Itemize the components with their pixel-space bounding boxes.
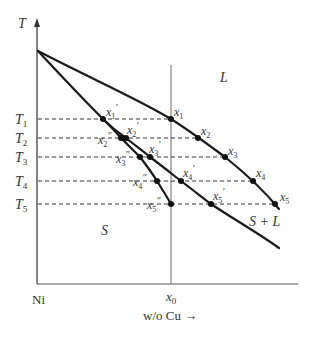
y-axis-label: T [18,16,27,31]
solidus-point-labels: x1′ x2′ x3′ x4′ x5′ [105,102,225,205]
x2-label: x2 [200,124,210,140]
x4-label: x4 [255,166,265,182]
t5-label: T5 [15,197,28,214]
t2-label: T2 [15,131,27,148]
x2-prime-label: x2′ [126,120,139,139]
y-axis-arrow-icon [34,18,40,27]
x2-dprime-label: x2″ [97,130,112,149]
point-x3-dprime [137,154,143,160]
t4-label: T4 [15,174,28,191]
x3-dprime-label: x3″ [115,149,130,168]
point-x2-dprime [118,135,124,141]
x5-label: x5 [279,190,289,206]
x1-prime-label: x1′ [105,102,118,121]
x0-label: x0 [165,289,177,306]
average-solid-curve [103,119,171,204]
x4-prime-label: x4′ [182,163,195,182]
liquidus-point-labels: x1 x2 x3 x4 x5 [173,105,289,206]
axes [34,18,298,284]
x1-label: x1 [173,105,183,121]
point-x5-dprime [168,201,174,207]
point-x4-dprime [154,178,160,184]
phase-diagram: T Ni x0 w/o Cu → T1 T2 T3 T4 T5 L S S + … [0,0,314,339]
x5-dprime-label: x5″ [146,195,161,214]
x5-prime-label: x5′ [212,186,225,205]
region-liquid-label: L [219,70,228,85]
t1-label: T1 [15,112,27,129]
x-origin-label: Ni [32,292,45,307]
x3-label: x3 [227,144,237,160]
x3-prime-label: x3′ [148,139,161,158]
region-two-phase-label: S + L [249,214,280,229]
x-axis-label: w/o Cu → [143,308,197,323]
region-solid-label: S [101,223,108,238]
point-x5 [272,201,278,207]
x4-dprime-label: x4″ [132,172,147,191]
t3-label: T3 [15,150,28,167]
temperature-labels: T1 T2 T3 T4 T5 [15,112,28,214]
